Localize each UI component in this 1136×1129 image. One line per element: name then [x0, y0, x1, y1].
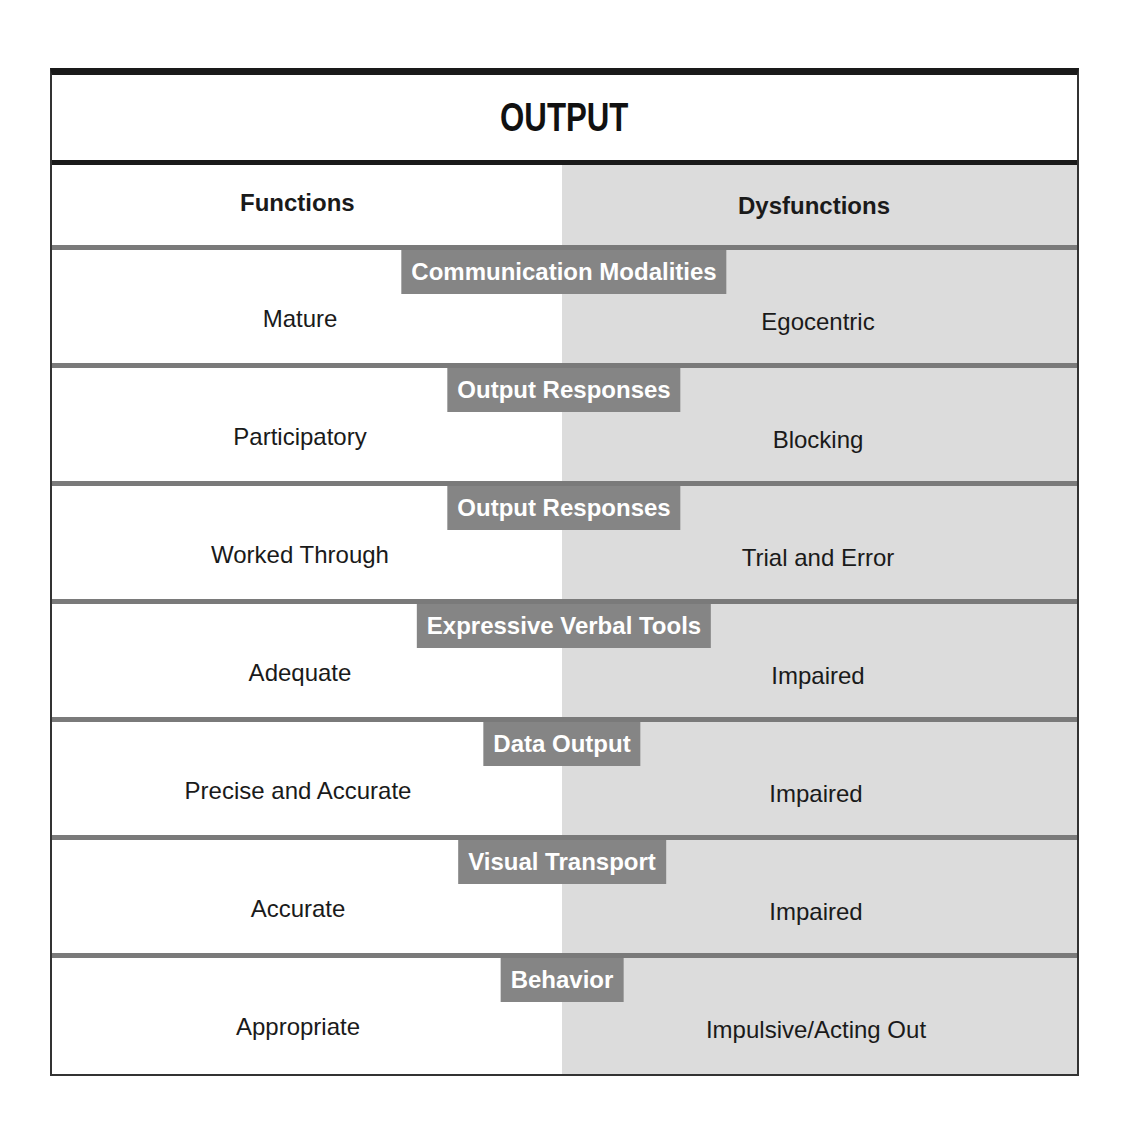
dysfunction-cell: Trial and Error — [742, 544, 894, 572]
dysfunction-cell: Impaired — [769, 898, 862, 926]
table-title: OUTPUT — [500, 95, 628, 140]
table-row: Communication Modalities Mature Egocentr… — [52, 245, 1077, 363]
category-tag: Expressive Verbal Tools — [417, 604, 711, 648]
dysfunction-cell: Egocentric — [761, 308, 874, 336]
table-body: Functions Dysfunctions Communication Mod… — [52, 165, 1077, 1074]
table-row: Data Output Precise and Accurate Impaire… — [52, 717, 1077, 835]
function-cell: Worked Through — [211, 541, 389, 569]
table-row: Output Responses Worked Through Trial an… — [52, 481, 1077, 599]
category-tag: Output Responses — [447, 368, 680, 412]
function-cell: Appropriate — [236, 1013, 360, 1041]
dysfunction-cell: Impaired — [769, 780, 862, 808]
category-tag: Communication Modalities — [401, 250, 726, 294]
dysfunction-cell: Blocking — [773, 426, 864, 454]
function-cell: Precise and Accurate — [185, 777, 412, 805]
function-cell: Adequate — [249, 659, 352, 687]
function-cell: Participatory — [233, 423, 366, 451]
table-row: Behavior Appropriate Impulsive/Acting Ou… — [52, 953, 1077, 1083]
table-row: Expressive Verbal Tools Adequate Impaire… — [52, 599, 1077, 717]
dysfunction-cell: Impulsive/Acting Out — [706, 1016, 926, 1044]
title-row: OUTPUT — [52, 75, 1077, 165]
category-tag: Output Responses — [447, 486, 680, 530]
table-row: Visual Transport Accurate Impaired — [52, 835, 1077, 953]
category-tag: Behavior — [501, 958, 624, 1002]
column-header-row: Functions Dysfunctions — [52, 165, 1077, 245]
column-header-functions: Functions — [240, 189, 355, 217]
category-tag: Visual Transport — [458, 840, 666, 884]
dysfunction-cell: Impaired — [771, 662, 864, 690]
table-row: Output Responses Participatory Blocking — [52, 363, 1077, 481]
function-cell: Accurate — [251, 895, 346, 923]
function-cell: Mature — [263, 305, 338, 333]
column-header-dysfunctions: Dysfunctions — [738, 192, 890, 220]
category-tag: Data Output — [483, 722, 640, 766]
output-table: OUTPUT Functions Dysfunctions Communicat… — [50, 68, 1079, 1076]
